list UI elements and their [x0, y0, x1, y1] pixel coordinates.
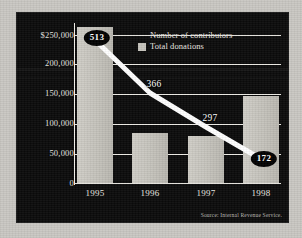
legend-label-contributors: Number of contributors [150, 30, 232, 41]
y-tick-200000: 200,000 [45, 59, 74, 68]
point-label-1996: 366 [146, 80, 161, 90]
y-axis-labels: $250,000 200,000 150,000 100,000 50,000 … [17, 13, 74, 222]
chart-legend: Number of contributors Total donations [138, 30, 232, 52]
legend-line-swatch-icon [138, 32, 146, 40]
legend-item-contributors: Number of contributors [138, 30, 232, 41]
x-axis-labels: 1995 1996 1997 1998 [75, 189, 281, 203]
y-tick-100000: 100,000 [45, 119, 74, 128]
point-label-1997: 297 [202, 114, 217, 124]
x-tick-1998: 1998 [251, 189, 270, 198]
chart-panel: $250,000 200,000 150,000 100,000 50,000 … [17, 13, 288, 222]
y-tick-150000: 150,000 [45, 89, 74, 98]
legend-label-donations: Total donations [150, 41, 204, 52]
legend-square-swatch-icon [138, 43, 146, 51]
gridline-0-baseline [75, 183, 281, 184]
y-tick-50000: 50,000 [49, 149, 74, 158]
x-tick-1997: 1997 [196, 189, 215, 198]
y-tick-250000: $250,000 [41, 31, 74, 40]
legend-item-donations: Total donations [138, 41, 232, 52]
x-tick-1995: 1995 [85, 189, 104, 198]
x-tick-1996: 1996 [140, 189, 159, 198]
source-note: Source: Internal Revenue Service. [201, 212, 282, 218]
